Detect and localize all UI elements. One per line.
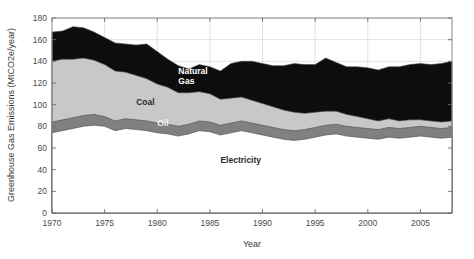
y-tick-label: 80	[38, 121, 48, 131]
x-tick-labels: 19701975198019851990199520002005	[43, 218, 431, 228]
y-tick-labels: 020406080100120140160180	[33, 13, 47, 218]
series-label-coal: Coal	[136, 97, 154, 107]
y-tick-label: 160	[33, 35, 47, 45]
x-tick-label: 1995	[306, 218, 325, 228]
y-tick-label: 120	[33, 78, 47, 88]
y-tick-label: 100	[33, 100, 47, 110]
x-tick-label: 1975	[95, 218, 114, 228]
x-axis-title: Year	[243, 239, 261, 249]
y-tick-label: 20	[38, 186, 48, 196]
x-tick-label: 2000	[358, 218, 377, 228]
x-tick-label: 2005	[411, 218, 430, 228]
y-tick-label: 180	[33, 13, 47, 23]
y-tick-label: 40	[38, 165, 48, 175]
area-electricity	[52, 125, 452, 213]
series-label-natural-gas: Natural	[178, 66, 207, 76]
y-tick-label: 60	[38, 143, 48, 153]
x-tick-label: 1990	[253, 218, 272, 228]
series-label-electricity: Electricity	[220, 155, 261, 165]
x-tick-label: 1970	[43, 218, 62, 228]
x-tick-label: 1985	[200, 218, 219, 228]
series-label-oil: Oil	[157, 118, 168, 128]
y-axis-title-group: Greenhouse Gas Emissions (MtCO2e/year)	[6, 28, 16, 202]
x-axis-title-group: Year	[243, 239, 261, 249]
series-label-natural-gas: Gas	[178, 76, 194, 86]
stacked-area-chart: 020406080100120140160180 197019751980198…	[0, 0, 474, 259]
y-tick-label: 140	[33, 56, 47, 66]
y-axis-title: Greenhouse Gas Emissions (MtCO2e/year)	[6, 28, 16, 202]
x-tick-label: 1980	[148, 218, 167, 228]
chart-figure: 020406080100120140160180 197019751980198…	[0, 0, 474, 259]
y-tick-label: 0	[42, 208, 47, 218]
